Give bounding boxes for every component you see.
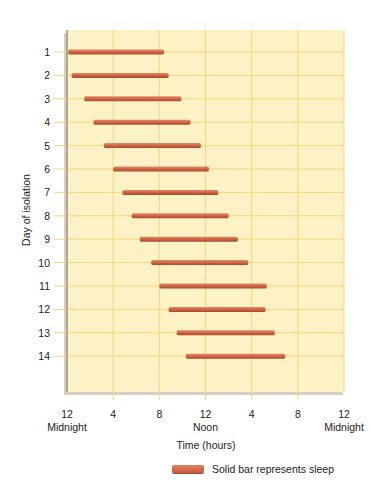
sleep-bar-day-10 bbox=[151, 260, 248, 265]
y-tick-label: 11 bbox=[39, 280, 50, 292]
sleep-bar-day-12 bbox=[169, 307, 266, 312]
sleep-bar-day-9 bbox=[140, 237, 238, 242]
sleep-bar-day-14 bbox=[186, 354, 285, 359]
legend-swatch-sleep bbox=[172, 465, 204, 473]
x-tick-sublabel: Midnight bbox=[47, 421, 87, 433]
y-tick-label: 1 bbox=[44, 46, 50, 58]
y-tick-label: 7 bbox=[44, 186, 50, 198]
x-tick-label: 12 bbox=[200, 408, 212, 420]
x-tick-sublabel: Midnight bbox=[324, 421, 364, 433]
x-tick-label: 4 bbox=[249, 408, 255, 420]
y-axis-ticks: 1234567891011121314 bbox=[38, 46, 50, 362]
y-tick-label: 10 bbox=[38, 257, 50, 269]
x-tick-label: 4 bbox=[110, 408, 116, 420]
sleep-bar-day-7 bbox=[122, 190, 218, 195]
sleep-bar-day-2 bbox=[72, 73, 169, 78]
sleep-bar-day-11 bbox=[159, 284, 266, 289]
x-tick-label: 12 bbox=[338, 408, 350, 420]
sleep-chart: 1234567891011121314 12Midnight4812Noon48… bbox=[0, 0, 371, 493]
y-tick-label: 9 bbox=[44, 233, 50, 245]
y-tick-label: 8 bbox=[44, 210, 50, 222]
x-axis-ticks: 12Midnight4812Noon4812Midnight bbox=[47, 408, 364, 433]
sleep-bar-day-5 bbox=[104, 143, 201, 148]
sleep-bar-day-8 bbox=[132, 213, 229, 218]
legend-label: Solid bar represents sleep bbox=[212, 463, 334, 475]
y-tick-label: 2 bbox=[44, 69, 50, 81]
y-tick-label: 14 bbox=[38, 350, 50, 362]
x-tick-label: 12 bbox=[61, 408, 73, 420]
y-tick-label: 13 bbox=[38, 327, 50, 339]
y-axis-title: Day of isolation bbox=[20, 174, 32, 246]
y-tick-label: 4 bbox=[44, 116, 50, 128]
x-tick-label: 8 bbox=[295, 408, 301, 420]
y-tick-label: 5 bbox=[44, 140, 50, 152]
sleep-bar-day-4 bbox=[94, 120, 191, 125]
sleep-bar-day-1 bbox=[68, 50, 164, 55]
y-tick-label: 3 bbox=[44, 93, 50, 105]
y-tick-label: 6 bbox=[44, 163, 50, 175]
sleep-bar-day-6 bbox=[113, 167, 209, 172]
y-tick-label: 12 bbox=[38, 303, 50, 315]
legend: Solid bar represents sleep bbox=[172, 463, 334, 475]
sleep-bar-day-3 bbox=[84, 96, 181, 101]
x-tick-sublabel: Noon bbox=[193, 421, 218, 433]
x-axis-title: Time (hours) bbox=[176, 439, 235, 451]
x-tick-label: 8 bbox=[156, 408, 162, 420]
sleep-bar-day-13 bbox=[177, 330, 275, 335]
